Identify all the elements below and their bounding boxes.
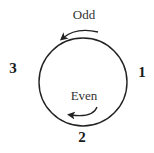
position-3-label: 3 <box>9 61 17 76</box>
odd-label: Odd <box>73 8 95 21</box>
even-arrow-icon <box>71 107 97 116</box>
position-1-label: 1 <box>138 65 146 80</box>
cycle-circle <box>39 38 127 126</box>
position-2-label: 2 <box>78 130 86 145</box>
even-label: Even <box>71 89 98 102</box>
cycle-diagram <box>0 0 154 153</box>
odd-arrow-icon <box>63 30 98 38</box>
